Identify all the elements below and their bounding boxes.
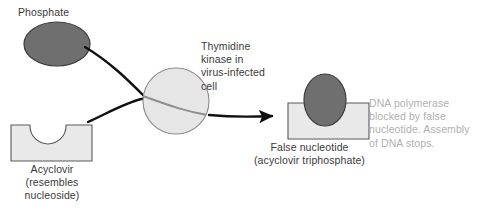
- label-thymidine-kinase: Thymidine kinase in virus-infected cell: [201, 40, 265, 93]
- bound-phosphate-ellipse: [304, 74, 346, 126]
- acyclovir-block: [11, 125, 92, 161]
- thymidine-kinase-circle: [143, 68, 209, 134]
- label-dna-polymerase: DNA polymerase blocked by false nucleoti…: [369, 97, 479, 150]
- acyclovir-to-kinase-curve: [88, 98, 146, 122]
- label-phosphate: Phosphate: [18, 6, 69, 19]
- kinase-to-nucleotide-arrow: [209, 115, 272, 117]
- phosphate-to-kinase-curve: [85, 47, 145, 97]
- label-acyclovir: Acyclovir (resembles nucleoside): [6, 163, 98, 203]
- diagram-canvas: Phosphate Acyclovir (resembles nucleosid…: [0, 0, 482, 215]
- label-false-nucleotide: False nucleotide (acyclovir triphosphate…: [232, 141, 387, 167]
- phosphate-ellipse: [24, 22, 90, 66]
